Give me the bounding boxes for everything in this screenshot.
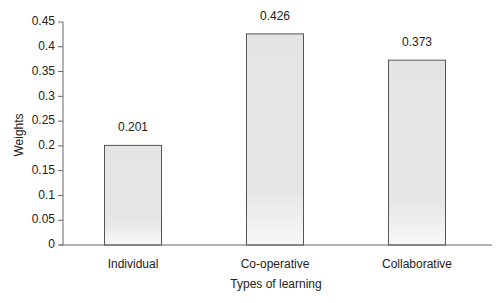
y-tick-label: 0.35 [32,64,56,78]
x-axis-label: Types of learning [230,277,321,291]
y-tick-label: 0.4 [38,39,55,53]
x-category-label: Co-operative [241,257,310,271]
bar-value-label: 0.426 [260,9,290,23]
y-tick-label: 0.3 [38,89,55,103]
y-tick-label: 0.05 [32,212,56,226]
y-tick-label: 0 [48,237,55,251]
bars: 0.201Individual0.426Co-operative0.373Col… [105,9,453,271]
y-axis-label: Weights [12,113,26,156]
y-axis-ticks: 00.050.10.150.20.250.30.350.40.45 [32,14,63,251]
bar-value-label: 0.201 [118,120,148,134]
bar-chart: 00.050.10.150.20.250.30.350.40.45 0.201I… [0,0,503,303]
chart-canvas: 00.050.10.150.20.250.30.350.40.45 0.201I… [0,0,503,303]
x-category-label: Collaborative [382,257,452,271]
bar-collaborative [389,60,446,245]
x-category-label: Individual [108,257,159,271]
bar-value-label: 0.373 [402,35,432,49]
y-tick-label: 0.15 [32,163,56,177]
bar-individual [105,145,162,245]
y-tick-label: 0.25 [32,113,56,127]
bar-co-operative [247,34,304,245]
y-tick-label: 0.45 [32,14,56,28]
y-tick-label: 0.1 [38,188,55,202]
y-tick-label: 0.2 [38,138,55,152]
